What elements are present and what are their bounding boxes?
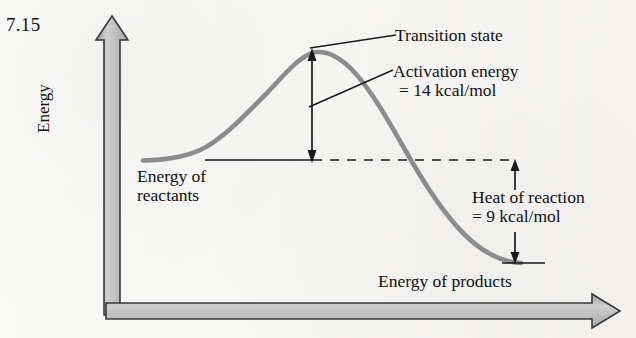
heat-of-reaction-line-2: = 9 kcal/mol: [472, 207, 585, 226]
activation-energy-line-1: Activation energy: [393, 61, 519, 81]
label-heat-of-reaction: Heat of reaction = 9 kcal/mol: [472, 188, 585, 226]
energy-of-reactants-line-1: Energy of: [137, 166, 206, 186]
heat-of-reaction-line-1: Heat of reaction: [472, 187, 585, 207]
transition-state-leader-line: [310, 35, 396, 48]
label-energy-of-reactants: Energy of reactants: [137, 167, 206, 205]
diagram-canvas: [0, 0, 636, 338]
y-axis-label: Energy: [34, 84, 54, 133]
label-activation-energy: Activation energy = 14 kcal/mol: [393, 62, 519, 100]
energy-of-reactants-line-2: reactants: [137, 186, 206, 205]
figure-number: 7.15: [6, 14, 40, 36]
x-axis-arrow: [106, 294, 620, 328]
activation-energy-leader-line: [309, 70, 393, 107]
y-axis-arrow: [96, 16, 128, 315]
label-transition-state: Transition state: [395, 26, 503, 45]
label-energy-of-products: Energy of products: [378, 272, 512, 291]
reaction-energy-diagram: 7.15 Energy Transition state Activation …: [0, 0, 636, 338]
activation-energy-line-2: = 14 kcal/mol: [393, 81, 519, 100]
